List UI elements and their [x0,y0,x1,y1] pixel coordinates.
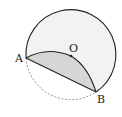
center-point-o [70,55,73,58]
label-a: A [14,52,24,65]
label-b: B [97,93,105,106]
geometry-diagram: A O B [0,0,122,117]
diagram-svg: A O B [0,0,122,117]
label-o: O [69,42,78,55]
